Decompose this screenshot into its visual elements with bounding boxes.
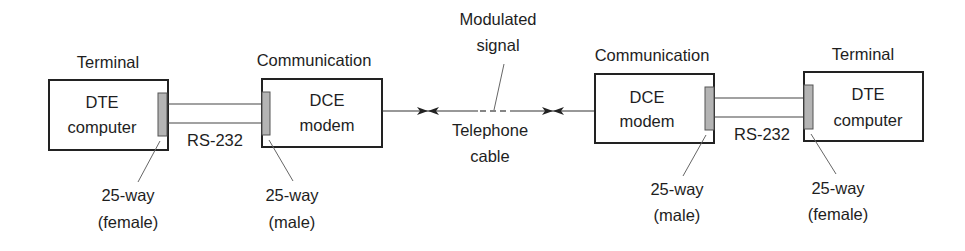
- left-cable-label: RS-232: [187, 131, 243, 149]
- left-dce-connector-label-1: 25-way: [265, 186, 319, 204]
- right-cable-label: RS-232: [734, 125, 790, 143]
- right-rs232-cable: RS-232: [714, 98, 804, 143]
- left-dte-box: [49, 80, 168, 150]
- right-dce-line2: modem: [619, 112, 674, 130]
- right-dte-connector-label-2: (female): [808, 205, 869, 223]
- right-dce-connector: [705, 87, 714, 130]
- left-dte-line1: DTE: [86, 93, 119, 111]
- right-modem-caption: Communication: [595, 46, 710, 64]
- right-dte-connector: [804, 85, 813, 129]
- left-dte-connector: [158, 93, 167, 136]
- right-dce-connector-label-2: (male): [654, 206, 701, 224]
- left-modem: Communication DCE modem 25-way (male): [257, 51, 382, 231]
- left-modem-caption: Communication: [257, 51, 372, 69]
- right-dte-connector-label-1: 25-way: [811, 179, 865, 197]
- right-modem: Communication DCE modem 25-way (male): [595, 46, 714, 224]
- left-dte-connector-label-2: (female): [98, 213, 159, 231]
- telephone-cable: Modulated signal Telephone cable: [382, 10, 594, 165]
- left-terminal: Terminal DTE computer 25-way (female): [49, 53, 168, 231]
- right-dce-line1: DCE: [630, 88, 665, 106]
- left-dce-line2: modem: [299, 116, 354, 134]
- telephone-label-2: cable: [470, 147, 509, 165]
- right-terminal: Terminal DTE computer 25-way (female): [804, 45, 923, 223]
- right-terminal-caption: Terminal: [832, 45, 894, 63]
- right-dte-line2: computer: [834, 111, 903, 129]
- signal-label-1: Modulated: [459, 10, 536, 28]
- signal-leader: [494, 64, 504, 110]
- right-dte-line1: DTE: [852, 85, 885, 103]
- left-dte-connector-label-1: 25-way: [101, 186, 155, 204]
- right-dce-connector-label-1: 25-way: [650, 180, 704, 198]
- left-dte-line2: computer: [68, 118, 137, 136]
- telephone-label-1: Telephone: [452, 121, 528, 139]
- left-dce-line1: DCE: [310, 91, 345, 109]
- signal-label-2: signal: [476, 36, 519, 54]
- left-dce-connector-label-2: (male): [269, 213, 316, 231]
- right-dte-box: [804, 72, 923, 141]
- left-rs232-cable: RS-232: [168, 104, 261, 149]
- left-dce-box: [262, 79, 382, 147]
- left-terminal-caption: Terminal: [77, 53, 139, 71]
- left-dce-connector: [262, 92, 270, 135]
- right-dce-box: [595, 74, 714, 143]
- modem-link-diagram: Terminal DTE computer 25-way (female) RS…: [0, 0, 965, 251]
